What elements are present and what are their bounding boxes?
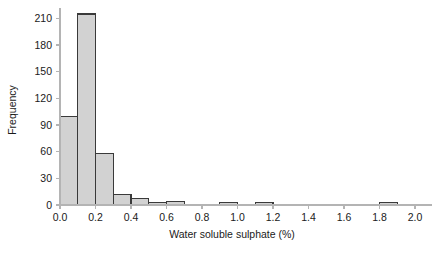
x-tick-label: 0.6: [159, 211, 174, 223]
histogram-figure: 0.00.20.40.60.81.01.21.41.61.82.0 030609…: [0, 0, 441, 257]
y-tick-label: 60: [40, 145, 52, 157]
y-tick-label: 180: [34, 39, 52, 51]
x-tick-label: 2.0: [408, 211, 423, 223]
x-tick-label: 0.8: [195, 211, 210, 223]
x-axis-ticks: 0.00.20.40.60.81.01.21.41.61.82.0: [53, 205, 423, 223]
x-tick-label: 0.0: [53, 211, 68, 223]
y-tick-label: 210: [34, 12, 52, 24]
y-tick-label: 150: [34, 65, 52, 77]
bar-series: [60, 14, 397, 205]
histogram-bar: [113, 194, 131, 205]
y-tick-label: 0: [46, 199, 52, 211]
histogram-bar: [131, 199, 149, 205]
x-tick-label: 1.2: [266, 211, 281, 223]
x-tick-label: 1.6: [337, 211, 352, 223]
y-tick-label: 120: [34, 92, 52, 104]
x-tick-label: 1.8: [372, 211, 387, 223]
x-axis-title: Water soluble sulphate (%): [169, 228, 295, 240]
x-tick-label: 1.4: [301, 211, 316, 223]
y-tick-label: 30: [40, 172, 52, 184]
y-axis-ticks: 0306090120150180210: [34, 12, 60, 211]
histogram-bar: [78, 14, 96, 205]
y-tick-label: 90: [40, 119, 52, 131]
x-tick-label: 1.0: [230, 211, 245, 223]
x-tick-label: 0.4: [124, 211, 139, 223]
histogram-plot: 0.00.20.40.60.81.01.21.41.61.82.0 030609…: [0, 0, 441, 257]
y-axis-title: Frequency: [6, 84, 18, 134]
x-tick-label: 0.2: [88, 211, 103, 223]
histogram-bar: [60, 116, 78, 205]
histogram-bar: [96, 153, 114, 205]
